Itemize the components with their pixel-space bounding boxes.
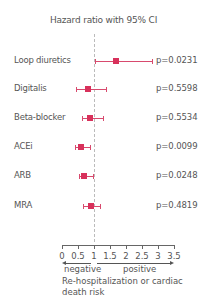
hazard-ratio-marker — [85, 86, 91, 92]
ci-cap — [79, 174, 80, 179]
hazard-ratio-marker — [88, 203, 94, 209]
hazard-ratio-marker — [81, 173, 87, 179]
reference-line — [94, 34, 95, 242]
ci-cap — [75, 145, 76, 150]
x-tick — [110, 245, 111, 249]
ci-cap — [90, 145, 91, 150]
ci-cap — [103, 116, 104, 121]
x-tick — [158, 245, 159, 249]
p-value: p=0.4819 — [156, 200, 197, 210]
p-value: p=0.0248 — [156, 170, 197, 180]
row-label: Beta-blocker — [14, 112, 65, 122]
x-tick — [174, 245, 175, 249]
x-axis-label: Re-hospitalization or cardiac death risk — [62, 276, 202, 298]
ci-cap — [95, 59, 96, 64]
x-tick — [94, 245, 95, 249]
confidence-interval — [76, 89, 106, 90]
ci-cap — [83, 204, 84, 209]
negative-label: negative — [64, 264, 101, 274]
ci-cap — [82, 116, 83, 121]
x-tick — [126, 245, 127, 249]
row-label: ACEi — [14, 141, 33, 151]
positive-label: positive — [123, 264, 156, 274]
hazard-ratio-marker — [78, 144, 84, 150]
x-tick-label: 3.5 — [164, 251, 184, 261]
chart-title: Hazard ratio with 95% CI — [0, 15, 207, 25]
p-value: p=0.5598 — [156, 83, 197, 93]
ci-cap — [76, 87, 77, 92]
row-label: MRA — [14, 200, 32, 210]
ci-cap — [152, 59, 153, 64]
arrow-right-icon — [170, 261, 174, 265]
p-value: p=0.0099 — [156, 141, 197, 151]
x-tick — [78, 245, 79, 249]
row-label: Loop diuretics — [14, 55, 71, 65]
p-value: p=0.0231 — [156, 55, 197, 65]
x-tick — [62, 245, 63, 249]
p-value: p=0.5534 — [156, 112, 197, 122]
row-label: Digitalis — [14, 83, 47, 93]
confidence-interval — [95, 61, 152, 62]
ci-cap — [93, 174, 94, 179]
ci-cap — [106, 87, 107, 92]
hazard-ratio-marker — [87, 115, 93, 121]
row-label: ARB — [14, 170, 31, 180]
ci-cap — [100, 204, 101, 209]
x-tick — [142, 245, 143, 249]
hazard-ratio-marker — [113, 58, 119, 64]
